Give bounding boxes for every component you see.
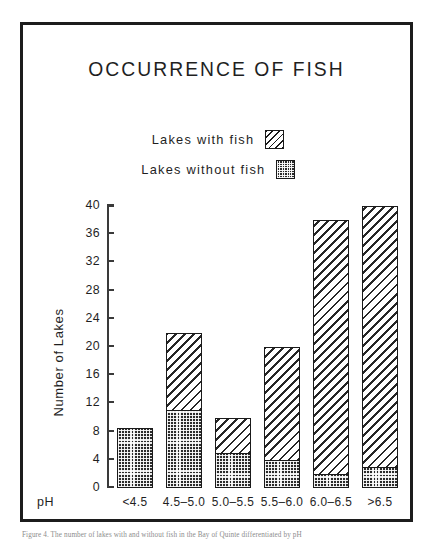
y-axis-tick-label: 28	[68, 282, 100, 297]
y-axis-tick-label: 40	[68, 197, 100, 212]
plot-area: 0481216202428323640 Number of Lakes <4.5…	[23, 25, 410, 519]
bar-segment-without-fish[interactable]	[313, 474, 349, 488]
y-axis-title: Number of Lakes	[51, 293, 66, 433]
y-axis-tick-label: 20	[68, 338, 100, 353]
bar-segment-without-fish[interactable]	[166, 410, 202, 488]
y-axis-tick-label: 8	[68, 423, 100, 438]
x-axis-category-label: >6.5	[345, 495, 415, 509]
bar-group[interactable]	[166, 333, 202, 488]
y-axis-tick-label: 12	[68, 394, 100, 409]
bar-group[interactable]	[362, 206, 398, 488]
y-axis-tick-label: 0	[68, 479, 100, 494]
y-axis-tick-label: 36	[68, 225, 100, 240]
bar-segment-without-fish[interactable]	[362, 467, 398, 488]
y-axis-tick-label: 32	[68, 253, 100, 268]
bar-segment-without-fish[interactable]	[264, 460, 300, 488]
figure-caption: Figure 4. The number of lakes with and w…	[22, 531, 422, 539]
bar-segment-with-fish[interactable]	[313, 220, 349, 474]
bar-segment-with-fish[interactable]	[264, 347, 300, 460]
bar-group[interactable]	[264, 347, 300, 488]
y-axis-tick-label: 4	[68, 451, 100, 466]
bar-group[interactable]	[313, 220, 349, 488]
x-axis-title: pH	[37, 495, 54, 509]
bar-segment-with-fish[interactable]	[362, 206, 398, 467]
bar-group[interactable]	[117, 428, 153, 488]
y-axis-tick-label: 24	[68, 310, 100, 325]
bar-segment-without-fish[interactable]	[117, 428, 153, 488]
bar-group[interactable]	[215, 418, 251, 489]
figure-frame: OCCURRENCE OF FISH Lakes with fish Lakes…	[20, 22, 413, 522]
y-axis-tick-label: 16	[68, 366, 100, 381]
bar-segment-with-fish[interactable]	[215, 418, 251, 453]
bar-segment-with-fish[interactable]	[166, 333, 202, 411]
bars-layer	[107, 205, 407, 488]
bar-segment-without-fish[interactable]	[215, 453, 251, 488]
